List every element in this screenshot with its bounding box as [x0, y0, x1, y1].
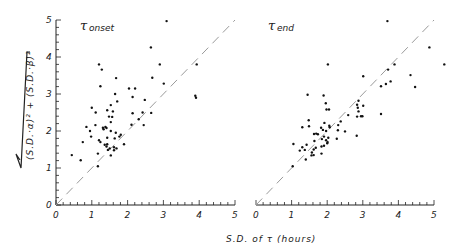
data-point — [90, 135, 92, 137]
data-point — [113, 146, 115, 148]
data-point — [320, 152, 322, 154]
y-tick-label: 0 — [46, 200, 52, 210]
data-point — [114, 137, 116, 139]
x-tick-label: 2 — [324, 210, 330, 220]
data-point — [325, 130, 327, 132]
data-point — [380, 113, 382, 115]
data-point — [108, 115, 110, 117]
data-point — [409, 74, 411, 76]
panel-subscript-onset: onset — [89, 23, 114, 33]
y-tick-label: 2 — [46, 126, 52, 136]
data-point — [306, 94, 308, 96]
data-point — [80, 159, 82, 161]
data-point — [356, 115, 358, 117]
x-tick-label: 3 — [360, 210, 366, 220]
data-point — [361, 115, 363, 117]
data-point — [337, 129, 339, 131]
data-point — [357, 107, 359, 109]
data-point — [131, 96, 133, 98]
data-point — [105, 127, 107, 129]
y-tick-label: 3 — [46, 89, 52, 99]
data-point — [414, 86, 416, 88]
data-point — [144, 99, 146, 101]
data-point — [104, 144, 106, 146]
data-point — [115, 147, 117, 149]
y-tick-label: 5 — [46, 15, 52, 25]
data-point — [321, 138, 323, 140]
data-point — [305, 144, 307, 146]
tau-symbol: τ — [80, 18, 88, 33]
data-point — [165, 20, 167, 22]
data-point — [151, 77, 153, 79]
data-point — [150, 112, 152, 114]
x-tick-label: 4 — [196, 210, 202, 220]
data-point — [357, 100, 359, 102]
data-point — [317, 133, 319, 135]
data-point — [138, 118, 140, 120]
data-point — [385, 83, 387, 85]
data-point — [313, 133, 315, 135]
data-point — [301, 146, 303, 148]
data-point — [325, 108, 327, 110]
data-point — [329, 126, 331, 128]
data-point — [97, 152, 99, 154]
data-point — [95, 111, 97, 113]
panel-label-onset: τ onset — [80, 18, 114, 33]
data-point — [196, 63, 198, 65]
data-point — [110, 130, 112, 132]
data-point — [128, 87, 130, 89]
data-point — [118, 135, 120, 137]
data-point — [105, 145, 107, 147]
data-point — [347, 114, 349, 116]
data-point — [356, 104, 358, 106]
panel-onset: 012345012345 — [46, 15, 238, 220]
data-point — [313, 148, 315, 150]
data-point — [106, 109, 108, 111]
data-point — [102, 128, 104, 130]
data-point — [111, 116, 113, 118]
data-point — [101, 68, 103, 70]
identity-reference-line — [56, 20, 235, 205]
x-tick-label: 5 — [232, 210, 238, 220]
data-point — [428, 46, 430, 48]
data-point — [386, 20, 388, 22]
data-point — [110, 104, 112, 106]
data-point — [308, 119, 310, 121]
data-point — [106, 143, 108, 145]
data-point — [110, 154, 112, 156]
data-point — [85, 126, 87, 128]
data-point — [336, 138, 338, 140]
data-point — [362, 75, 364, 77]
y-tick-label: 4 — [46, 52, 52, 62]
data-point — [115, 132, 117, 134]
x-axis-title: S.D. of τ (hours) — [226, 234, 316, 244]
data-point — [163, 82, 165, 84]
data-point — [320, 145, 322, 147]
data-point — [123, 143, 125, 145]
data-point — [393, 63, 395, 65]
data-point — [82, 141, 84, 143]
data-point — [387, 68, 389, 70]
panel-label-end: τ end — [268, 18, 294, 33]
data-point — [134, 87, 136, 89]
x-tick-label: 0 — [253, 210, 259, 220]
data-point — [143, 124, 145, 126]
data-point — [357, 110, 359, 112]
data-point — [323, 145, 325, 147]
scatter-figure: (S.D.·α)² + (S.D.·β)² 012345012345 01234… — [0, 0, 454, 252]
data-point — [130, 124, 132, 126]
data-point — [323, 135, 325, 137]
data-point — [380, 85, 382, 87]
x-tick-label: 4 — [395, 210, 401, 220]
data-point — [159, 63, 161, 65]
data-point — [113, 149, 115, 151]
data-point — [97, 165, 99, 167]
data-point — [311, 151, 313, 153]
data-point — [195, 97, 197, 99]
data-point — [328, 108, 330, 110]
data-point — [310, 154, 312, 156]
data-point — [326, 142, 328, 144]
data-point — [91, 107, 93, 109]
data-point — [110, 121, 112, 123]
data-point — [98, 63, 100, 65]
